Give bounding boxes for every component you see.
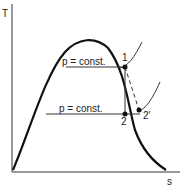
t-axis-label: T	[2, 9, 8, 19]
point-1	[123, 65, 128, 70]
upper-isobar-label: p = const.	[62, 57, 106, 67]
lower-isobar-superheat	[138, 82, 160, 112]
diagram-canvas	[0, 0, 188, 190]
point-2prime-label: 2′	[143, 111, 150, 121]
s-axis-label: s	[167, 177, 172, 187]
point-2-label: 2	[121, 117, 127, 127]
actual-line-1-2prime	[125, 67, 139, 110]
point-1-label: 1	[122, 53, 128, 63]
lower-isobar-label: p = const.	[59, 104, 103, 114]
point-2prime	[137, 108, 142, 113]
ts-diagram: T s p = const. p = const. 1 2 2′	[0, 0, 188, 190]
